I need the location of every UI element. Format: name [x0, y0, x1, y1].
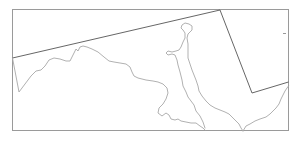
state-boundary-east	[220, 10, 289, 93]
shoreline-east	[243, 86, 289, 131]
map-canvas	[0, 0, 300, 143]
map-frame	[13, 10, 289, 131]
state-boundary-north	[13, 10, 221, 58]
